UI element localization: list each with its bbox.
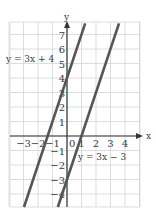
y-axis-label: y	[63, 12, 70, 22]
y-tick-label: −3	[50, 175, 65, 186]
y-tick-label: −1	[50, 146, 65, 157]
coordinate-plane: −3−2−101234−4−3−2−11234567 y x y = 3x + …	[0, 0, 156, 216]
y-tick-label: 4	[59, 73, 65, 84]
x-tick-label: 4	[122, 138, 128, 149]
y-tick-label: 6	[59, 44, 65, 55]
x-tick-label: −3	[16, 138, 31, 149]
equation-label-1: y = 3x + 4	[5, 54, 54, 64]
y-tick-label: −2	[50, 160, 65, 171]
x-tick-label: 2	[93, 138, 99, 149]
equation-label-2: y = 3x − 3	[77, 152, 126, 162]
y-tick-label: 5	[59, 59, 65, 70]
x-tick-label: 0	[69, 138, 75, 149]
x-tick-label: 3	[107, 138, 113, 149]
y-tick-label: 1	[59, 117, 65, 128]
y-tick-label: 7	[59, 30, 65, 41]
x-axis-label: x	[146, 131, 151, 141]
grid	[9, 22, 140, 207]
